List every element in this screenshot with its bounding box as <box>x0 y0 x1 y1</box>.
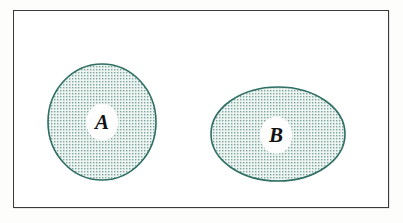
set-b-label-backdrop <box>260 117 292 154</box>
venn-diagram-figure: A B <box>0 0 403 223</box>
set-a-label-backdrop <box>86 104 118 141</box>
sets-canvas <box>0 0 403 223</box>
